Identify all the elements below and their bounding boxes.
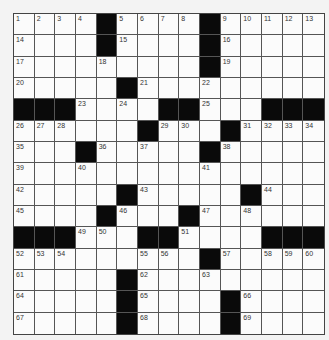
grid-cell[interactable] (159, 185, 180, 206)
grid-cell[interactable] (76, 57, 97, 78)
grid-cell[interactable] (76, 206, 97, 227)
grid-cell[interactable]: 26 (14, 121, 35, 142)
grid-cell[interactable] (303, 163, 324, 184)
grid-cell[interactable]: 27 (35, 121, 56, 142)
grid-cell[interactable] (35, 142, 56, 163)
grid-cell[interactable] (138, 57, 159, 78)
grid-cell[interactable]: 16 (221, 35, 242, 56)
grid-cell[interactable] (283, 35, 304, 56)
grid-cell[interactable] (221, 227, 242, 248)
grid-cell[interactable]: 29 (159, 121, 180, 142)
grid-cell[interactable] (179, 142, 200, 163)
grid-cell[interactable]: 12 (283, 14, 304, 35)
grid-cell[interactable] (117, 57, 138, 78)
grid-cell[interactable] (117, 227, 138, 248)
grid-cell[interactable] (283, 313, 304, 334)
grid-cell[interactable] (241, 249, 262, 270)
grid-cell[interactable]: 31 (241, 121, 262, 142)
grid-cell[interactable] (241, 142, 262, 163)
grid-cell[interactable] (55, 142, 76, 163)
grid-cell[interactable] (35, 313, 56, 334)
grid-cell[interactable] (55, 57, 76, 78)
grid-cell[interactable] (159, 206, 180, 227)
grid-cell[interactable] (76, 291, 97, 312)
grid-cell[interactable]: 46 (117, 206, 138, 227)
grid-cell[interactable] (35, 185, 56, 206)
grid-cell[interactable]: 59 (283, 249, 304, 270)
grid-cell[interactable] (55, 185, 76, 206)
grid-cell[interactable]: 34 (303, 121, 324, 142)
grid-cell[interactable] (97, 99, 118, 120)
grid-cell[interactable]: 15 (117, 35, 138, 56)
grid-cell[interactable]: 57 (221, 249, 242, 270)
grid-cell[interactable] (35, 163, 56, 184)
grid-cell[interactable] (97, 121, 118, 142)
grid-cell[interactable] (76, 78, 97, 99)
grid-cell[interactable]: 2 (35, 14, 56, 35)
grid-cell[interactable]: 41 (200, 163, 221, 184)
grid-cell[interactable] (262, 142, 283, 163)
grid-cell[interactable] (55, 270, 76, 291)
grid-cell[interactable] (283, 142, 304, 163)
grid-cell[interactable] (35, 35, 56, 56)
grid-cell[interactable] (97, 249, 118, 270)
grid-cell[interactable] (159, 142, 180, 163)
grid-cell[interactable] (138, 35, 159, 56)
grid-cell[interactable]: 58 (262, 249, 283, 270)
grid-cell[interactable] (283, 57, 304, 78)
grid-cell[interactable] (76, 249, 97, 270)
grid-cell[interactable]: 64 (14, 291, 35, 312)
grid-cell[interactable] (200, 227, 221, 248)
grid-cell[interactable] (241, 57, 262, 78)
grid-cell[interactable]: 63 (200, 270, 221, 291)
grid-cell[interactable] (159, 270, 180, 291)
grid-cell[interactable]: 39 (14, 163, 35, 184)
grid-cell[interactable] (303, 142, 324, 163)
grid-cell[interactable]: 67 (14, 313, 35, 334)
grid-cell[interactable] (159, 57, 180, 78)
grid-cell[interactable]: 7 (159, 14, 180, 35)
grid-cell[interactable] (303, 206, 324, 227)
grid-cell[interactable] (283, 163, 304, 184)
grid-cell[interactable]: 13 (303, 14, 324, 35)
grid-cell[interactable] (179, 270, 200, 291)
grid-cell[interactable] (97, 313, 118, 334)
grid-cell[interactable]: 49 (76, 227, 97, 248)
grid-cell[interactable]: 54 (55, 249, 76, 270)
grid-cell[interactable] (35, 78, 56, 99)
grid-cell[interactable]: 25 (200, 99, 221, 120)
grid-cell[interactable] (200, 185, 221, 206)
grid-cell[interactable]: 14 (14, 35, 35, 56)
grid-cell[interactable] (35, 57, 56, 78)
grid-cell[interactable] (303, 313, 324, 334)
grid-cell[interactable]: 56 (159, 249, 180, 270)
grid-cell[interactable] (55, 35, 76, 56)
grid-cell[interactable] (179, 185, 200, 206)
grid-cell[interactable]: 66 (241, 291, 262, 312)
grid-cell[interactable]: 55 (138, 249, 159, 270)
grid-cell[interactable] (179, 291, 200, 312)
grid-cell[interactable] (76, 270, 97, 291)
grid-cell[interactable] (262, 206, 283, 227)
grid-cell[interactable] (76, 35, 97, 56)
grid-cell[interactable] (283, 270, 304, 291)
grid-cell[interactable] (262, 163, 283, 184)
grid-cell[interactable] (179, 78, 200, 99)
grid-cell[interactable] (97, 78, 118, 99)
grid-cell[interactable] (35, 270, 56, 291)
grid-cell[interactable] (303, 78, 324, 99)
grid-cell[interactable] (283, 291, 304, 312)
grid-cell[interactable] (76, 121, 97, 142)
grid-cell[interactable] (138, 163, 159, 184)
grid-cell[interactable]: 62 (138, 270, 159, 291)
grid-cell[interactable] (241, 227, 262, 248)
grid-cell[interactable] (55, 291, 76, 312)
grid-cell[interactable] (179, 35, 200, 56)
grid-cell[interactable]: 1 (14, 14, 35, 35)
grid-cell[interactable]: 24 (117, 99, 138, 120)
grid-cell[interactable] (241, 78, 262, 99)
grid-cell[interactable] (159, 163, 180, 184)
grid-cell[interactable]: 18 (97, 57, 118, 78)
grid-cell[interactable] (76, 185, 97, 206)
grid-cell[interactable] (159, 35, 180, 56)
